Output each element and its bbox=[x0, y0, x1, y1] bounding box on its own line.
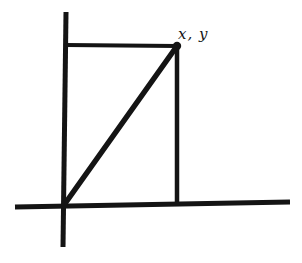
coordinate-sketch-figure bbox=[0, 0, 302, 263]
drawing-canvas: x, y bbox=[0, 0, 302, 263]
vertex-point-label: x, y bbox=[178, 25, 208, 43]
x-axis-line bbox=[15, 202, 290, 207]
hypotenuse-line bbox=[64, 46, 177, 205]
y-axis-line bbox=[63, 12, 66, 247]
vertex-point-marker bbox=[173, 42, 181, 50]
top-horizontal-segment bbox=[66, 45, 177, 46]
